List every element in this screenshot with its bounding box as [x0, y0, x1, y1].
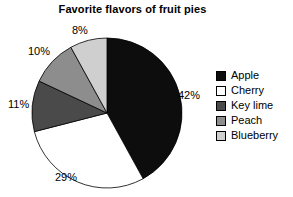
legend-swatch-icon: [216, 71, 226, 81]
legend-item-blueberry: Blueberry: [216, 128, 292, 143]
legend-item-label: Key lime: [231, 100, 273, 111]
slice-label-key-lime: 11%: [8, 98, 29, 110]
legend-item-label: Blueberry: [231, 130, 278, 141]
legend-item-apple: Apple: [216, 68, 292, 83]
chart-legend: AppleCherryKey limePeachBlueberry: [216, 68, 292, 143]
legend-item-label: Peach: [231, 115, 262, 126]
slice-label-cherry: 29%: [55, 171, 77, 183]
legend-item-cherry: Cherry: [216, 83, 292, 98]
pie-slice-group: [32, 38, 182, 188]
legend-item-label: Apple: [231, 70, 259, 81]
slice-label-peach: 10%: [28, 45, 50, 57]
pie-chart-figure: Favorite flavors of fruit pies 42% 29% 1…: [0, 0, 293, 197]
legend-item-peach: Peach: [216, 113, 292, 128]
legend-swatch-icon: [216, 116, 226, 126]
slice-label-apple: 42%: [178, 89, 200, 101]
legend-swatch-icon: [216, 101, 226, 111]
legend-item-key-lime: Key lime: [216, 98, 292, 113]
legend-item-label: Cherry: [231, 85, 264, 96]
legend-swatch-icon: [216, 86, 226, 96]
legend-swatch-icon: [216, 131, 226, 141]
slice-label-blueberry: 8%: [72, 24, 88, 36]
